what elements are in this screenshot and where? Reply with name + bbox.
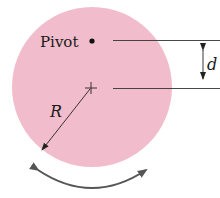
radius-label: R — [49, 102, 62, 121]
disk — [12, 7, 172, 167]
diagram-svg: Pivot R d — [0, 0, 220, 198]
pendulum-diagram: Pivot R d — [0, 0, 220, 198]
pivot-label: Pivot — [40, 33, 78, 51]
pivot-point — [89, 38, 94, 43]
oscillation-arrow — [38, 170, 146, 188]
distance-label: d — [207, 55, 217, 74]
